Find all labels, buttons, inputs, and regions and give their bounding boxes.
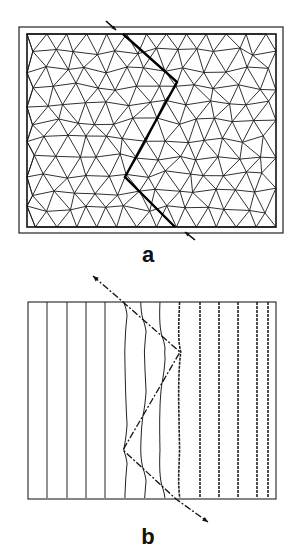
crack-path bbox=[123, 34, 177, 227]
arrow-head-icon bbox=[202, 517, 208, 522]
crack-path-b bbox=[93, 276, 208, 522]
contour-line bbox=[160, 302, 165, 498]
panel-a-label: a bbox=[142, 244, 154, 266]
panel-b-label: b bbox=[141, 526, 154, 546]
contour-lines bbox=[47, 302, 268, 498]
mesh-left-edges bbox=[27, 34, 35, 227]
figure-canvas bbox=[0, 0, 297, 546]
panel-a-mesh bbox=[19, 21, 283, 240]
contour-line bbox=[124, 302, 127, 498]
panel-b-contours bbox=[28, 276, 276, 522]
contour-line bbox=[179, 302, 181, 498]
